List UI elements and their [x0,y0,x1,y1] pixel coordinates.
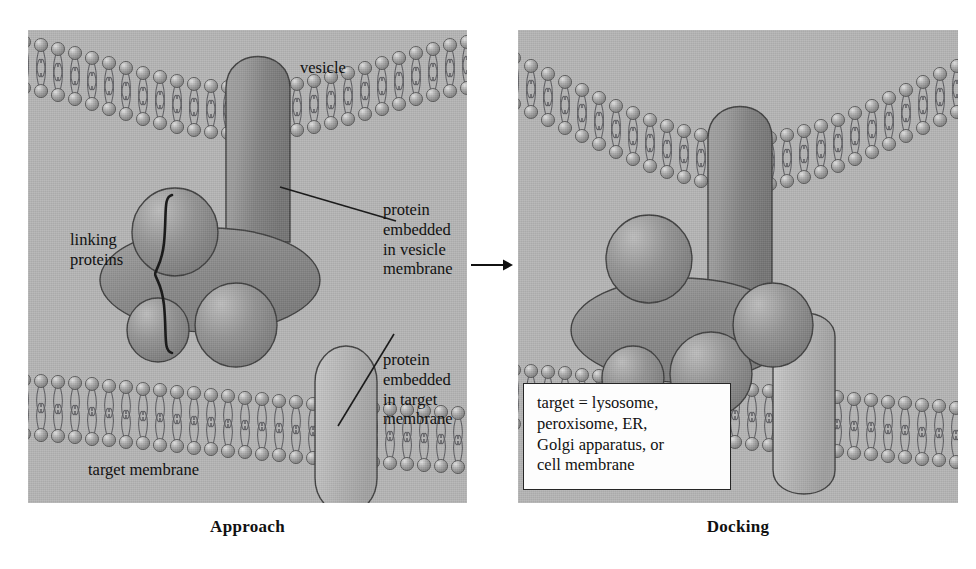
infobox-line-2: peroxisome, ER, [537,414,730,435]
vesicle-protein-leader-line [278,185,398,225]
vesicle-protein-line-3: in vesicle [383,240,467,260]
vesicle-embedded-protein-shape [708,107,772,296]
vesicle-protein-line-4: membrane [383,259,467,279]
target-protein-line-4: membrane [383,409,467,429]
infobox-line-3: Golgi apparatus, or [537,435,730,456]
target-protein-line-3: in target [383,390,467,410]
vesicle-membrane [28,35,467,139]
vesicle-membrane [518,51,958,190]
vesicle-protein-line-2: embedded [383,220,467,240]
label-vesicle-embedded-protein: protein embedded in vesicle membrane [383,200,467,279]
caption-docking: Docking [518,517,958,537]
target-embedded-protein-shape [773,313,835,494]
target-protein-line-1: protein [383,350,467,370]
caption-approach: Approach [28,517,467,537]
infobox-line-1: target = lysosome, [537,393,730,414]
label-target-membrane: target membrane [88,460,199,479]
curly-brace-icon [154,193,176,355]
vesicle-protein-line-1: protein [383,200,467,220]
label-linking-proteins: linking proteins [70,230,162,270]
infobox-line-4: cell membrane [537,455,730,476]
panel-approach: vesicle linking proteins protein embedde… [28,30,467,503]
label-vesicle-approach: vesicle [300,58,346,77]
linking-proteins-line-2: proteins [70,250,162,270]
target-definition-box: target = lysosome, peroxisome, ER, Golgi… [523,383,731,490]
target-protein-line-2: embedded [383,370,467,390]
vesicle-docking-figure: vesicle linking proteins protein embedde… [0,0,976,569]
label-target-embedded-protein: protein embedded in target membrane [383,350,467,429]
arrow-right-icon [470,255,514,275]
linking-proteins-line-1: linking [70,230,162,250]
